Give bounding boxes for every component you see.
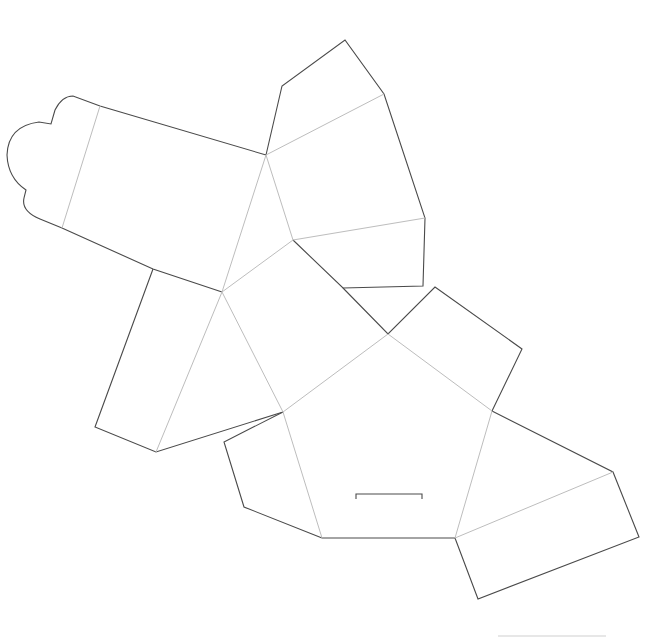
fold-f-h (455, 411, 492, 538)
dieline-diagram (0, 0, 671, 640)
cut-lines (7, 40, 639, 599)
left-side-panel-outline (95, 269, 283, 452)
tuck-slot (356, 494, 422, 499)
top-flap-outline (266, 40, 425, 288)
fold-top-flap-lower (293, 218, 425, 240)
fold-d-f (388, 334, 492, 411)
tuck-flap-fold (62, 106, 100, 228)
fold-right-panel (455, 472, 613, 538)
upper-right-panel-outline (343, 287, 522, 411)
fold-c-e (222, 292, 283, 412)
fold-b-c (222, 240, 293, 292)
fold-a-c (222, 155, 266, 292)
fold-top-flap-upper (266, 94, 384, 155)
fold-lines (62, 94, 613, 538)
lower-left-flap-outline (224, 412, 322, 538)
fold-e-d (283, 334, 388, 412)
fold-a-b (266, 155, 293, 240)
fold-e-g (283, 412, 322, 538)
tuck-flap-outline (7, 96, 266, 228)
right-panel-outline (455, 411, 639, 599)
fold-c-left-panel (156, 292, 222, 452)
tuck-flap-bottom-edge (62, 228, 222, 292)
